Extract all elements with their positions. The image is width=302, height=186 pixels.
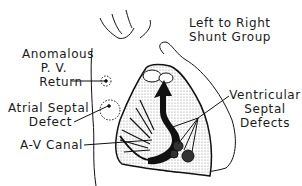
label-ventricular-septal-defects: Ventricular Septal Defects xyxy=(229,88,301,130)
label-text: Return xyxy=(22,75,86,89)
label-text: Defects xyxy=(229,116,301,130)
label-text: A-V Canal xyxy=(20,138,83,152)
heart-diagram: Left to Right Shunt Group Anomalous P. V… xyxy=(0,0,302,186)
label-atrial-septal-defect: Atrial Septal Defect xyxy=(8,101,88,129)
label-text: Defect xyxy=(8,115,88,129)
label-text: Atrial Septal xyxy=(8,101,88,115)
label-text: P. V. xyxy=(22,61,86,75)
label-text: Anomalous xyxy=(22,47,86,61)
label-anomalous-pv-return: Anomalous P. V. Return xyxy=(22,47,86,89)
label-av-canal: A-V Canal xyxy=(20,138,83,152)
diagram-title: Left to Right Shunt Group xyxy=(189,16,271,44)
title-line-1: Left to Right xyxy=(189,16,271,30)
title-line-2: Shunt Group xyxy=(189,30,271,44)
label-text: Septal xyxy=(229,102,301,116)
label-text: Ventricular xyxy=(229,88,301,102)
